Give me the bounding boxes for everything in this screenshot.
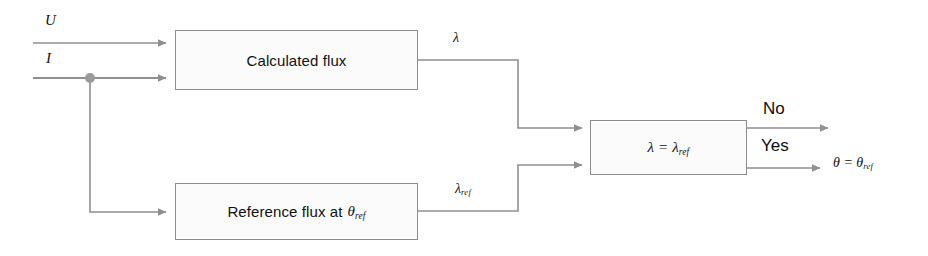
comparator-equation: λ = λref	[648, 139, 690, 157]
output-lhs: θ	[833, 155, 840, 170]
input-label-i: I	[46, 50, 51, 67]
block-reference-flux-theta: θref	[348, 203, 366, 221]
block-reference-flux[interactable]: Reference flux at θref	[175, 183, 418, 240]
branch-label-yes: Yes	[761, 136, 789, 156]
comparator-rhs: λ	[672, 139, 679, 155]
comparator-operator: =	[658, 139, 668, 155]
signal-label-lambda: λ	[453, 30, 459, 46]
output-rhs-subscript: ref	[863, 161, 873, 171]
output-label-theta-equals-theta-ref: θ = θref	[833, 155, 873, 171]
output-operator: =	[843, 155, 852, 170]
junction-dot	[85, 73, 95, 83]
theta-subscript: ref	[355, 210, 366, 220]
input-label-u: U	[45, 12, 56, 29]
wiring-layer	[0, 0, 928, 256]
lambda-ref-subscript: ref	[461, 187, 471, 197]
signal-label-lambda-ref: λref	[455, 181, 471, 197]
block-diagram: U I Calculated flux Reference flux at θr…	[0, 0, 928, 256]
branch-label-no: No	[763, 99, 785, 119]
wire-lambda-to-comparator	[418, 60, 582, 128]
block-calculated-flux-label: Calculated flux	[247, 52, 347, 69]
wire-lambda-ref-to-comparator	[418, 165, 582, 211]
block-calculated-flux[interactable]: Calculated flux	[175, 30, 418, 90]
theta-symbol: θ	[348, 203, 355, 219]
wire-i-branch-to-reference-flux	[90, 78, 166, 212]
block-reference-flux-label: Reference flux at	[227, 203, 342, 220]
comparator-rhs-subscript: ref	[679, 146, 690, 156]
block-comparator[interactable]: λ = λref	[590, 120, 747, 175]
comparator-lhs: λ	[648, 139, 655, 155]
